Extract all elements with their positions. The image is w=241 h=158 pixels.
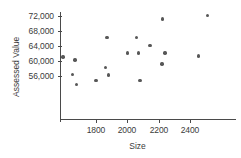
data-point xyxy=(135,36,138,39)
x-tick-2000 xyxy=(127,119,128,123)
data-point xyxy=(107,73,110,76)
y-axis-line xyxy=(60,12,61,122)
y-tick-label-72000: 72,000 xyxy=(0,12,54,21)
x-axis-line xyxy=(60,119,236,120)
data-point xyxy=(161,17,164,20)
x-axis-title: Size xyxy=(17,142,241,151)
y-tick-label-64000: 64,000 xyxy=(0,42,54,51)
data-point xyxy=(105,36,108,39)
x-tick-label-2400: 2400 xyxy=(170,126,210,135)
data-point xyxy=(71,73,74,76)
data-point xyxy=(75,83,78,86)
y-tick-72000 xyxy=(58,16,62,17)
scatter-plot: Assessed Value Size 72,000 68,000 64,000… xyxy=(0,0,241,158)
y-tick-label-68000: 68,000 xyxy=(0,27,54,36)
data-point xyxy=(137,51,140,54)
data-point xyxy=(104,66,107,69)
y-tick-56000 xyxy=(58,76,62,77)
x-tick-1800 xyxy=(96,119,97,123)
data-point xyxy=(197,54,200,57)
y-tick-label-56000: 56,000 xyxy=(0,72,54,81)
y-tick-60000 xyxy=(58,61,62,62)
x-tick-2400 xyxy=(190,119,191,123)
data-point xyxy=(61,55,64,58)
data-point xyxy=(126,51,129,54)
y-tick-64000 xyxy=(58,46,62,47)
x-tick-2200 xyxy=(159,119,160,123)
data-point xyxy=(148,44,151,47)
data-point xyxy=(94,79,97,82)
data-point xyxy=(138,79,141,82)
data-point xyxy=(163,51,166,54)
y-tick-label-60000: 60,000 xyxy=(0,57,54,66)
data-point xyxy=(206,14,209,17)
data-point xyxy=(73,58,76,61)
data-point xyxy=(160,62,163,65)
y-tick-68000 xyxy=(58,31,62,32)
